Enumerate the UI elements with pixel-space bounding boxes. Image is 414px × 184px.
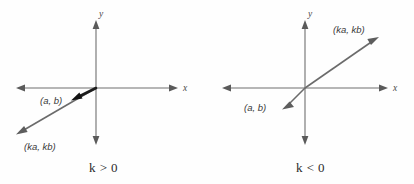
vector-a-b-label-left: (a, b): [40, 95, 62, 106]
y-axis-right-arrowhead-top: [302, 20, 309, 29]
y-axis-label-right: y: [307, 9, 313, 19]
vector-a-b-label-right: (a, b): [244, 102, 266, 113]
y-axis-right-arrowhead-bottom: [302, 136, 309, 145]
y-axis-label-left: y: [98, 9, 104, 19]
x-axis-right-arrowhead-right: [379, 85, 388, 92]
y-axis-left-arrowhead-bottom: [93, 136, 100, 145]
caption-k-negative: k < 0: [207, 160, 414, 176]
x-axis-left-arrowhead-right: [169, 85, 178, 92]
y-axis-left-arrowhead-top: [93, 20, 100, 29]
vector-a-b-arrowhead-left: [71, 92, 83, 100]
x-axis-label-right: x: [392, 83, 398, 93]
panel-k-positive: x y (a, b) (ka, kb): [0, 0, 207, 184]
vector-scalar-multiplication-figure: x y (a, b) (ka, kb) x y: [0, 0, 414, 184]
x-axis-right-arrowhead-left: [222, 85, 231, 92]
panel-k-negative: x y (ka, kb) (a, b): [207, 0, 414, 184]
vector-a-b-line-right: [289, 88, 305, 104]
vector-ka-kb-arrowhead-left: [16, 126, 28, 135]
caption-k-positive: k > 0: [0, 160, 207, 176]
x-axis-left-arrowhead-left: [16, 85, 25, 92]
x-axis-label-left: x: [182, 83, 188, 93]
vector-ka-kb-label-right: (ka, kb): [333, 24, 365, 35]
vector-ka-kb-label-left: (ka, kb): [24, 141, 56, 152]
vector-a-b-arrowhead-right: [282, 102, 294, 110]
vector-ka-kb-line-right: [305, 42, 372, 89]
